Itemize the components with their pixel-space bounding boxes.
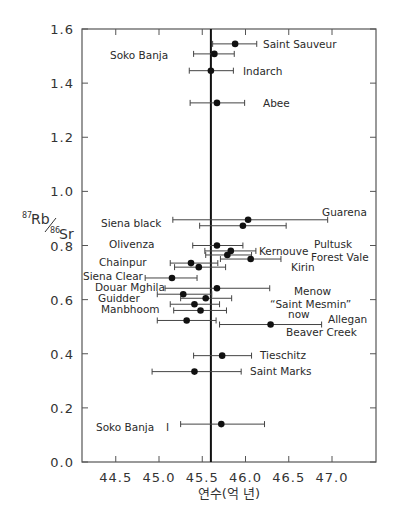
meteorite-label: now (288, 308, 310, 320)
data-point (194, 51, 235, 58)
point-marker (214, 285, 221, 292)
meteorite-label: Soko Banja (96, 421, 154, 433)
data-point (181, 295, 232, 302)
point-marker (195, 264, 202, 271)
point-marker (219, 352, 226, 359)
point-marker (218, 421, 225, 428)
point-marker (224, 252, 231, 259)
y-axis-title: 87 Rb 86 Sr (22, 211, 74, 242)
point-marker (183, 317, 190, 324)
data-point (190, 100, 244, 107)
data-point (181, 421, 265, 428)
meteorite-label: Soko Banja (110, 49, 168, 61)
y-tick-label: 0.2 (50, 401, 74, 416)
point-marker (240, 222, 247, 229)
point-marker (267, 321, 274, 328)
meteorite-label: Saint Marks (250, 365, 312, 377)
data-point (152, 368, 241, 375)
data-point (165, 285, 270, 292)
point-labels: Saint SauveurSoko BanjaIndarchAbeeGuaren… (83, 38, 369, 433)
meteorite-label: Allegan (328, 313, 367, 325)
data-point (173, 216, 328, 223)
y-tick-label: 0.0 (50, 455, 74, 470)
x-tick-label: 45.5 (186, 470, 219, 485)
meteorite-label: Guarena (322, 206, 367, 218)
meteorite-label: Beaver Creek (286, 326, 358, 338)
point-marker (214, 100, 221, 107)
point-marker (208, 67, 215, 74)
isochron-chart: 44.545.045.546.046.547.00.00.20.40.60.81… (0, 0, 395, 524)
y-tick-label: 1.0 (50, 184, 74, 199)
y-tick-label: 0.4 (50, 347, 74, 362)
meteorite-label: Siena black (101, 217, 162, 229)
svg-text:Sr: Sr (59, 226, 74, 242)
point-marker (247, 256, 254, 263)
y-tick-label: 1.2 (50, 130, 74, 145)
error-marker-glyph: I (166, 421, 169, 433)
point-marker (188, 260, 195, 267)
x-tick-label: 44.5 (99, 470, 132, 485)
point-marker (245, 216, 252, 223)
data-point (174, 307, 227, 314)
x-tick-label: 46.0 (229, 470, 262, 485)
data-point (213, 41, 257, 48)
meteorite-label: Kirin (291, 261, 315, 273)
meteorite-label: Manbhoom (101, 303, 160, 315)
meteorite-label: Pultusk (314, 238, 353, 250)
meteorite-label: Saint Sauveur (263, 38, 337, 50)
meteorite-label: Kernouve (259, 245, 308, 257)
x-tick-label: 45.0 (143, 470, 176, 485)
point-marker (191, 301, 198, 308)
y-tick-label: 1.4 (50, 76, 74, 91)
point-marker (202, 295, 209, 302)
x-tick-label: 47.0 (316, 470, 349, 485)
point-marker (169, 275, 176, 282)
x-tick-label: 46.5 (272, 470, 305, 485)
point-marker (214, 242, 221, 249)
meteorite-label: Tieschitz (259, 349, 306, 361)
meteorite-label: Olivenza (109, 238, 154, 250)
point-marker (191, 368, 198, 375)
data-point (200, 222, 287, 229)
svg-text:Rb: Rb (31, 211, 50, 227)
meteorite-label: Forest Vale (311, 251, 369, 263)
meteorite-label: Chainpur (99, 256, 147, 268)
data-point (205, 248, 256, 255)
y-tick-label: 1.6 (50, 22, 74, 37)
point-marker (232, 41, 239, 48)
data-point (189, 67, 233, 74)
data-point (157, 317, 216, 324)
data-point (170, 301, 219, 308)
point-marker (211, 51, 218, 58)
data-point (194, 352, 252, 359)
data-point (193, 242, 243, 249)
point-marker (197, 307, 204, 314)
x-axis-title: 연수(억 년) (198, 486, 260, 501)
meteorite-label: Menow (294, 285, 332, 297)
meteorite-label: Indarch (243, 65, 282, 77)
meteorite-label: Abee (263, 97, 290, 109)
meteorite-label: “Saint Mesmin” (270, 298, 351, 310)
data-point (206, 252, 252, 259)
y-tick-label: 0.6 (50, 293, 74, 308)
